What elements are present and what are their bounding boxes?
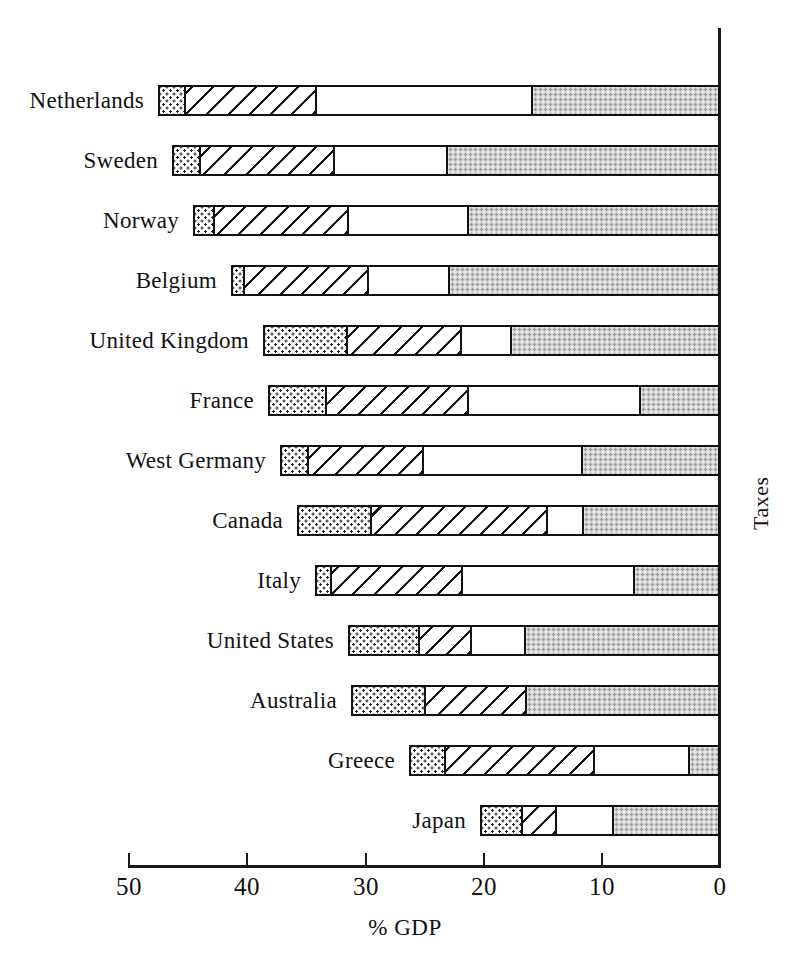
x-axis-title: % GDP xyxy=(345,915,465,941)
bar-stack[interactable] xyxy=(348,625,720,656)
x-axis-label-40: 40 xyxy=(217,873,277,901)
bar-segment-white xyxy=(315,87,531,114)
bar-segment-dotted xyxy=(282,447,307,474)
bar-segment-dotted xyxy=(233,267,243,294)
bar-row: Canada xyxy=(297,505,720,536)
bar-stack[interactable] xyxy=(193,205,720,236)
bar-segment-hatched xyxy=(243,267,367,294)
bar-segment-grey xyxy=(510,327,718,354)
bar-label: Sweden xyxy=(83,148,158,174)
bar-stack[interactable] xyxy=(158,85,720,116)
x-axis-label-10: 10 xyxy=(572,873,632,901)
x-axis-tick-10 xyxy=(601,853,603,866)
bar-segment-dotted xyxy=(174,147,199,174)
x-axis-line xyxy=(128,865,721,868)
bar-row: Norway xyxy=(193,205,720,236)
bar-stack[interactable] xyxy=(263,325,720,356)
bar-segment-hatched xyxy=(424,687,525,714)
bar-segment-hatched xyxy=(325,387,467,414)
stacked-bar-chart: 50 40 30 20 10 0 % GDP Taxes Netherlands… xyxy=(0,0,785,975)
bar-segment-white xyxy=(555,807,612,834)
bar-row: Greece xyxy=(409,745,720,776)
bar-row: United States xyxy=(348,625,720,656)
bar-stack[interactable] xyxy=(231,265,720,296)
bar-label: Japan xyxy=(412,808,466,834)
bar-label: Belgium xyxy=(136,268,217,294)
bar-segment-white xyxy=(593,747,688,774)
bar-segment-dotted xyxy=(270,387,325,414)
x-axis-label-20: 20 xyxy=(454,873,514,901)
bar-segment-hatched xyxy=(307,447,422,474)
bar-stack[interactable] xyxy=(315,565,720,596)
bar-segment-grey xyxy=(531,87,718,114)
bar-stack[interactable] xyxy=(409,745,720,776)
x-axis-label-30: 30 xyxy=(336,873,396,901)
bar-segment-white xyxy=(347,207,468,234)
x-axis-tick-30 xyxy=(365,853,367,866)
bar-row: Sweden xyxy=(172,145,720,176)
bar-stack[interactable] xyxy=(172,145,720,176)
bar-segment-hatched xyxy=(184,87,315,114)
bar-row: Japan xyxy=(480,805,720,836)
bar-segment-white xyxy=(422,447,582,474)
bar-row: Netherlands xyxy=(158,85,720,116)
x-axis-label-0: 0 xyxy=(690,873,750,901)
bar-segment-white xyxy=(546,507,582,534)
bar-segment-grey xyxy=(582,507,718,534)
bar-label: United Kingdom xyxy=(90,328,249,354)
bar-segment-dotted xyxy=(299,507,370,534)
bar-segment-grey xyxy=(581,447,718,474)
bar-segment-white xyxy=(367,267,449,294)
bar-segment-grey xyxy=(525,687,718,714)
bar-segment-white xyxy=(461,567,633,594)
bar-label: Canada xyxy=(212,508,283,534)
bar-label: Netherlands xyxy=(30,88,144,114)
bar-segment-hatched xyxy=(213,207,347,234)
bar-stack[interactable] xyxy=(297,505,720,536)
bar-stack[interactable] xyxy=(480,805,720,836)
bar-label: France xyxy=(190,388,254,414)
bar-label: West Germany xyxy=(126,448,266,474)
bar-segment-white xyxy=(460,327,510,354)
bar-segment-white xyxy=(470,627,525,654)
bar-label: Italy xyxy=(257,568,301,594)
bar-stack[interactable] xyxy=(351,685,720,716)
bar-row: West Germany xyxy=(280,445,720,476)
bar-segment-white xyxy=(467,387,640,414)
x-axis-label-50: 50 xyxy=(99,873,159,901)
bar-segment-dotted xyxy=(482,807,521,834)
bar-segment-hatched xyxy=(346,327,461,354)
bar-segment-hatched xyxy=(521,807,555,834)
bar-label: United States xyxy=(207,628,334,654)
x-axis-tick-40 xyxy=(246,853,248,866)
bar-row: Australia xyxy=(351,685,720,716)
bar-segment-hatched xyxy=(370,507,546,534)
bar-segment-dotted xyxy=(265,327,346,354)
bar-label: Norway xyxy=(103,208,179,234)
bar-segment-dotted xyxy=(411,747,444,774)
bar-segment-grey xyxy=(446,147,718,174)
bar-segment-hatched xyxy=(444,747,593,774)
bar-row: France xyxy=(268,385,720,416)
bar-segment-hatched xyxy=(330,567,461,594)
bar-segment-dotted xyxy=(195,207,213,234)
bar-label: Greece xyxy=(328,748,395,774)
bar-segment-grey xyxy=(612,807,718,834)
bar-segment-grey xyxy=(467,207,718,234)
x-axis-tick-20 xyxy=(483,853,485,866)
bar-segment-dotted xyxy=(353,687,424,714)
bar-segment-grey xyxy=(524,627,718,654)
bar-segment-grey xyxy=(688,747,718,774)
bar-label: Australia xyxy=(250,688,337,714)
bar-stack[interactable] xyxy=(268,385,720,416)
bar-segment-dotted xyxy=(350,627,418,654)
bar-segment-grey xyxy=(639,387,718,414)
bar-segment-hatched xyxy=(199,147,333,174)
bar-segment-grey xyxy=(448,267,718,294)
bar-stack[interactable] xyxy=(280,445,720,476)
bar-segment-grey xyxy=(633,567,718,594)
bar-row: United Kingdom xyxy=(263,325,720,356)
bar-row: Italy xyxy=(315,565,720,596)
x-axis-tick-50 xyxy=(128,853,130,866)
bar-segment-hatched xyxy=(418,627,470,654)
